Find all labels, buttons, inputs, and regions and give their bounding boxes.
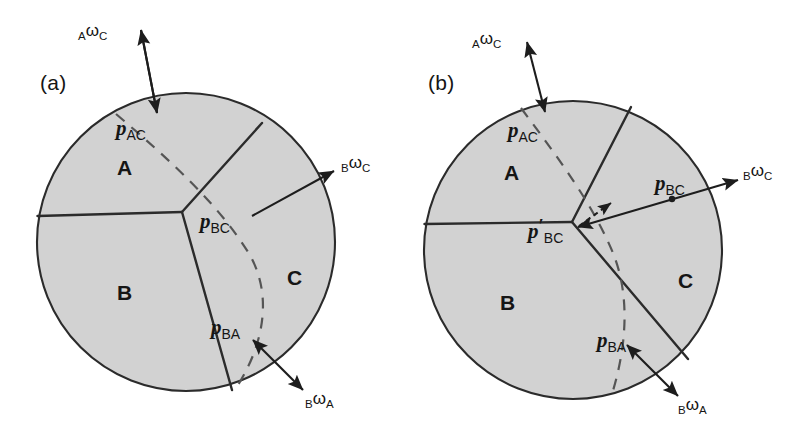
panel-b-region-label-C: C xyxy=(678,269,693,292)
panel-a-disk xyxy=(37,93,335,391)
figure-container: (a) A B C AωC BωC BωA pAC pBC pBA (b) xyxy=(0,0,800,434)
panel-b-arrow-A-omega-C xyxy=(527,42,545,112)
panel-a-vector-label-B-omega-A: BωA xyxy=(305,389,334,410)
panel-a: (a) A B C AωC BωC BωA pAC pBC pBA xyxy=(37,21,370,410)
panel-a-region-label-B: B xyxy=(117,281,132,304)
panel-a-vector-label-B-omega-C: BωC xyxy=(341,153,370,174)
panel-b-vector-label-B-omega-A: BωA xyxy=(678,395,707,416)
panel-a-region-label-C: C xyxy=(287,266,302,289)
panel-a-region-label-A: A xyxy=(117,156,132,179)
panel-a-label: (a) xyxy=(40,71,67,94)
panel-b-vector-label-A-omega-C: AωC xyxy=(472,29,501,50)
panel-b-region-label-B: B xyxy=(500,291,515,314)
panel-b-label: (b) xyxy=(428,71,455,94)
panel-b-vector-label-B-omega-C: BωC xyxy=(743,161,772,182)
panel-b: (b) A B C AωC BωC BωA pAC pBC p′BC pBA xyxy=(424,29,772,416)
panel-a-vector-label-A-omega-C: AωC xyxy=(78,21,107,42)
panel-b-region-label-A: A xyxy=(504,161,519,184)
panel-b-disk xyxy=(424,101,722,399)
diagram-svg: (a) A B C AωC BωC BωA pAC pBC pBA (b) xyxy=(0,0,800,434)
